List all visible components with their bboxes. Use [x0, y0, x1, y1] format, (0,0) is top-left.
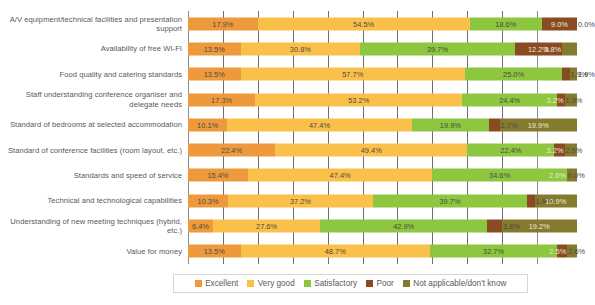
bar-segment-value: 2.6%	[566, 146, 583, 155]
chart-row: Food quality and catering standards13.5%…	[0, 62, 577, 87]
stacked-bar: 13.5%30.8%39.7%12.2%3.8%	[188, 42, 577, 55]
chart-row: A/V equipment/technical facilities and p…	[0, 11, 577, 36]
stacked-bar: 17.3%53.2%24.4%1.9%3.2%	[188, 93, 577, 106]
bar-segment-value: 24.4%	[499, 95, 520, 104]
bar-track: 15.4%47.4%34.6%0.0%2.6%	[188, 163, 577, 188]
bar-segment-value: 53.2%	[348, 95, 369, 104]
bar-segment: 1.9%	[527, 194, 534, 207]
bar-segment-value: 2.7%	[501, 120, 518, 129]
bar-segment-value: 17.9%	[212, 19, 233, 28]
bar-segment-value: 18.6%	[495, 19, 516, 28]
bar-segment: 3.8%	[487, 220, 502, 233]
bar-segment-value: 25.0%	[503, 70, 524, 79]
chart-row: Availability of free WI-FI13.5%30.8%39.7…	[0, 36, 577, 61]
bar-track: 13.5%48.7%32.7%2.6%2.5%	[188, 239, 577, 264]
bar-segment-value: 22.4%	[500, 146, 521, 155]
bar-segment-value: 19.9%	[528, 120, 549, 129]
bar-segment: 53.2%	[255, 93, 462, 106]
bar-segment: 17.3%	[188, 93, 255, 106]
bar-segment-value: 2.5%	[549, 247, 566, 256]
legend-label: Not applicable/don't know	[413, 279, 506, 288]
row-category-label: Staff understanding conference organiser…	[0, 90, 188, 108]
bar-segment-value: 10.9%	[545, 196, 566, 205]
stacked-bar: 17.9%54.5%18.6%9.0%0.0%	[188, 17, 577, 30]
row-category-label: Standard of conference facilities (room …	[0, 146, 188, 155]
bar-track: 10.3%37.2%39.7%1.9%10.9%	[188, 188, 577, 213]
legend-item[interactable]: Not applicable/don't know	[403, 279, 507, 288]
bar-segment-value: 1.9%	[578, 70, 595, 79]
bar-segment-value: 2.6%	[549, 171, 566, 180]
bar-segment-value: 17.3%	[211, 95, 232, 104]
stacked-bar: 13.5%48.7%32.7%2.6%2.5%	[188, 245, 577, 258]
chart-rows: A/V equipment/technical facilities and p…	[0, 11, 577, 264]
bar-track: 17.3%53.2%24.4%1.9%3.2%	[188, 87, 577, 112]
bar-segment: 32.7%	[430, 245, 557, 258]
bar-segment: 25.0%	[465, 68, 562, 81]
bar-segment: 57.7%	[241, 68, 465, 81]
stacked-bar: 10.1%47.4%19.9%2.7%19.9%	[188, 118, 577, 131]
bar-segment: 17.9%	[188, 17, 258, 30]
bar-segment-value: 2.6%	[568, 247, 585, 256]
legend-item[interactable]: Poor	[366, 279, 394, 288]
bar-segment-value: 1.9%	[566, 95, 583, 104]
bar-segment-value: 0.0%	[578, 19, 595, 28]
bar-segment-value: 3.2%	[547, 146, 564, 155]
bar-segment-value: 34.6%	[489, 171, 510, 180]
bar-segment: 9.0%	[542, 17, 577, 30]
bar-segment: 42.9%	[320, 220, 487, 233]
bar-track: 13.5%57.7%25.0%1.9%1.9%	[188, 62, 577, 87]
bar-segment-value: 13.5%	[204, 70, 225, 79]
bar-segment-value: 22.4%	[221, 146, 242, 155]
bar-segment-value: 3.8%	[544, 44, 561, 53]
bar-segment: 49.4%	[275, 144, 467, 157]
chart-row: Standard of bedrooms at selected accommo…	[0, 112, 577, 137]
stacked-bar: 13.5%57.7%25.0%1.9%1.9%	[188, 68, 577, 81]
bar-segment: 54.5%	[258, 17, 470, 30]
bar-segment: 27.6%	[213, 220, 320, 233]
bar-segment-value: 32.7%	[483, 247, 504, 256]
bar-track: 22.4%49.4%22.4%2.6%3.2%	[188, 137, 577, 162]
bar-segment: 47.4%	[227, 118, 411, 131]
bar-segment: 39.7%	[373, 194, 527, 207]
bar-segment: 30.8%	[241, 42, 361, 55]
bar-track: 17.9%54.5%18.6%9.0%0.0%	[188, 11, 577, 36]
chart-row: Standard of conference facilities (room …	[0, 137, 577, 162]
bar-segment-value: 19.2%	[529, 222, 550, 231]
legend-label: Very good	[258, 279, 295, 288]
bar-segment: 13.5%	[188, 68, 241, 81]
stacked-bar: 10.3%37.2%39.7%1.9%10.9%	[188, 194, 577, 207]
bar-segment-value: 39.7%	[439, 196, 460, 205]
bar-track: 6.4%27.6%42.9%3.8%19.2%	[188, 213, 577, 238]
stacked-bar: 6.4%27.6%42.9%3.8%19.2%	[188, 220, 577, 233]
legend-label: Excellent	[205, 279, 238, 288]
bar-segment-value: 54.5%	[353, 19, 374, 28]
bar-segment-value: 57.7%	[342, 70, 363, 79]
bar-segment: 15.4%	[188, 169, 248, 182]
chart-legend: ExcellentVery goodSatisfactoryPoorNot ap…	[173, 274, 528, 293]
bar-segment-value: 39.7%	[427, 44, 448, 53]
bar-segment-value: 48.7%	[325, 247, 346, 256]
bar-segment-value: 30.8%	[290, 44, 311, 53]
legend-item[interactable]: Satisfactory	[304, 279, 357, 288]
bar-segment: 48.7%	[241, 245, 430, 258]
bar-segment: 24.4%	[462, 93, 557, 106]
row-category-label: Standard of bedrooms at selected accommo…	[0, 120, 188, 129]
bar-segment: 18.6%	[470, 17, 542, 30]
bar-segment: 3.8%	[562, 42, 577, 55]
chart-row: Technical and technological capabilities…	[0, 188, 577, 213]
bar-segment-value: 27.6%	[256, 222, 277, 231]
row-category-label: Standards and speed of service	[0, 171, 188, 180]
legend-swatch-icon	[366, 280, 373, 287]
row-category-label: A/V equipment/technical facilities and p…	[0, 15, 188, 33]
bar-segment: 34.6%	[432, 169, 567, 182]
chart-row: Value for money13.5%48.7%32.7%2.6%2.5%	[0, 239, 577, 264]
stacked-bar: 15.4%47.4%34.6%0.0%2.6%	[188, 169, 577, 182]
legend-item[interactable]: Excellent	[195, 279, 239, 288]
bar-segment-value: 49.4%	[361, 146, 382, 155]
bar-segment: 10.3%	[188, 194, 228, 207]
bar-segment-value: 19.9%	[440, 120, 461, 129]
legend-item[interactable]: Very good	[247, 279, 294, 288]
bar-segment: 13.5%	[188, 42, 241, 55]
bar-segment: 2.7%	[489, 118, 500, 131]
